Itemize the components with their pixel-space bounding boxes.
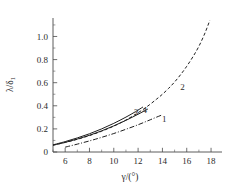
y-axis-title-subscript: 1 [9,77,16,80]
x-axis-tick-label: 12 [134,156,143,166]
x-axis-tick-label: 10 [109,156,119,166]
x-axis-title-text: γ/(°) [121,172,139,183]
y-axis-tick-label: 0.2 [37,124,48,134]
series-curve-1 [65,115,162,147]
x-axis-tick-label: 16 [182,156,192,166]
chart-tick-marks [53,25,211,152]
y-axis-tick-label: 1.0 [37,32,49,42]
chart-series-curves [53,20,210,147]
series-label-1: 1 [162,114,167,124]
y-axis-title-main: λ/δ [5,80,15,92]
svg-text:λ/δ1: λ/δ1 [5,77,16,92]
series-curve-3 [53,107,143,145]
x-axis-tick-label: 14 [158,156,168,166]
y-axis-tick-label: 0.8 [37,55,49,65]
x-axis-tick-label: 18 [207,156,217,166]
y-axis-title: λ/δ1 [5,77,16,92]
x-axis-title: γ/(°) [121,172,139,183]
series-label-3: 3 [134,107,139,117]
chart-plot-area: 68101214161800.20.40.60.81.0 1234 λ/δ1 γ… [0,0,237,187]
chart-tick-labels: 68101214161800.20.40.60.81.0 [37,32,216,166]
y-axis-tick-label: 0.6 [37,78,49,88]
chart-figure: 68101214161800.20.40.60.81.0 1234 λ/δ1 γ… [0,0,237,187]
chart-series-labels: 1234 [134,82,185,124]
series-curve-2 [53,20,210,145]
x-axis-tick-label: 6 [63,156,68,166]
chart-axes [53,18,222,152]
y-axis-tick-label: 0.4 [37,101,49,111]
series-label-2: 2 [180,82,185,92]
series-label-4: 4 [143,105,148,115]
x-axis-tick-label: 8 [87,156,92,166]
y-axis-tick-label: 0 [44,147,49,157]
